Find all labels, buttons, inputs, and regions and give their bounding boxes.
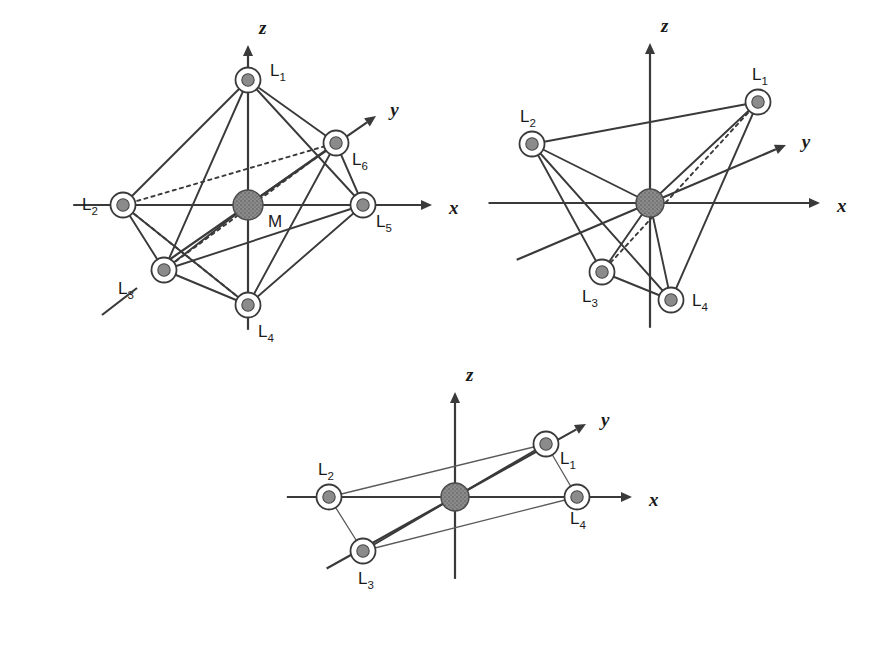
ligand-label-sub-L2: 2 bbox=[91, 205, 97, 217]
metal-label: M bbox=[268, 212, 282, 231]
axis-label-z: z bbox=[258, 17, 267, 38]
ligand-label-sub-L4: 4 bbox=[579, 519, 586, 531]
ligand-atom-L3 bbox=[596, 266, 608, 278]
ligand-atom-L1 bbox=[752, 96, 764, 108]
ligand-label-sub-L2: 2 bbox=[327, 470, 333, 482]
ligand-atom-L3 bbox=[158, 264, 170, 276]
axis-label-z: z bbox=[465, 364, 474, 385]
ligand-label-sub-L4: 4 bbox=[267, 332, 274, 344]
metal-atom bbox=[441, 483, 469, 511]
ligand-atom-L6 bbox=[330, 137, 342, 149]
ligand-atom-L2 bbox=[526, 138, 538, 150]
ligand-label-sub-L1: 1 bbox=[761, 75, 767, 87]
axis-label-y: y bbox=[599, 409, 610, 430]
ligand-atom-L3 bbox=[357, 545, 369, 557]
axis-label-x: x bbox=[448, 197, 459, 218]
ligand-label-sub-L3: 3 bbox=[367, 579, 373, 591]
ligand-label-sub-L5: 5 bbox=[385, 222, 391, 234]
axis-label-y: y bbox=[388, 99, 399, 120]
coordination-geometry-figure: zxyML1L2L3L4L5L6zxyL1L2L3L4zxyL1L2L3L4 bbox=[0, 0, 885, 660]
axis-label-y: y bbox=[800, 131, 811, 152]
metal-atom bbox=[636, 189, 664, 217]
ligand-atom-L4 bbox=[571, 491, 583, 503]
ligand-label-sub-L4: 4 bbox=[701, 301, 708, 313]
ligand-atom-L5 bbox=[357, 199, 369, 211]
metal-center-square-planar bbox=[441, 483, 469, 511]
axis-label-x: x bbox=[836, 195, 847, 216]
axis-label-x: x bbox=[648, 489, 659, 510]
ligand-atom-L1 bbox=[242, 74, 254, 86]
diagram-canvas: zxyML1L2L3L4L5L6zxyL1L2L3L4zxyL1L2L3L4 bbox=[0, 0, 885, 660]
ligand-atom-L2 bbox=[117, 199, 129, 211]
ligand-label-sub-L1: 1 bbox=[569, 459, 575, 471]
ligand-atom-L4 bbox=[242, 299, 254, 311]
metal-center-tetrahedral bbox=[636, 189, 664, 217]
ligand-label-sub-L3: 3 bbox=[591, 297, 597, 309]
ligand-atom-L4 bbox=[665, 294, 677, 306]
metal-atom bbox=[233, 190, 263, 220]
ligand-label-sub-L1: 1 bbox=[279, 71, 285, 83]
ligand-atom-L1 bbox=[540, 438, 552, 450]
ligand-label-sub-L6: 6 bbox=[361, 160, 367, 172]
axis-label-z: z bbox=[660, 15, 669, 36]
ligand-atom-L2 bbox=[323, 491, 335, 503]
ligand-label-sub-L2: 2 bbox=[529, 117, 535, 129]
